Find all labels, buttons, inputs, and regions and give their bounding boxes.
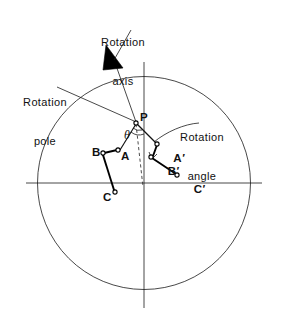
reference-dashed-line bbox=[136, 124, 143, 187]
node-marker-p bbox=[134, 121, 138, 125]
node-marker-b bbox=[101, 151, 105, 155]
rotation-axis-label-line1: Rotation bbox=[84, 36, 162, 49]
theta-angle-arc bbox=[131, 132, 144, 135]
point-label-c-prime-base: C bbox=[194, 183, 202, 195]
point-label-c: C bbox=[103, 191, 111, 205]
point-label-c-prime: C′ bbox=[181, 169, 205, 210]
node-marker-b-prime bbox=[149, 155, 153, 159]
point-label-c-prime-mark: ′ bbox=[202, 183, 205, 195]
rotation-pole-label: Rotation pole bbox=[6, 70, 84, 174]
point-label-a-prime-mark: ′ bbox=[182, 152, 185, 164]
rotation-axis-label: Rotation axis bbox=[84, 10, 162, 114]
point-label-a: A bbox=[121, 150, 129, 164]
theta-angle-label: θ bbox=[124, 128, 130, 142]
node-marker-a bbox=[116, 148, 120, 152]
point-label-p: P bbox=[140, 111, 148, 125]
point-label-b-prime-mark: ′ bbox=[176, 165, 179, 177]
rotation-axis-label-line2: axis bbox=[84, 75, 162, 88]
pole-to-a-prime-spoke bbox=[137, 124, 156, 143]
rotation-pole-label-line2: pole bbox=[6, 135, 84, 148]
segment-b-a bbox=[104, 150, 117, 153]
node-marker-c bbox=[113, 190, 117, 194]
node-marker-a-prime bbox=[155, 142, 159, 146]
point-label-b-prime-base: B bbox=[168, 165, 176, 177]
rotation-pole-label-line1: Rotation bbox=[6, 96, 84, 109]
point-label-b: B bbox=[92, 146, 100, 160]
rotation-pole-diagram: Rotation axis Rotation pole Rotation ang… bbox=[0, 0, 283, 324]
segment-b-c bbox=[103, 155, 114, 190]
point-label-b-prime: B′ bbox=[155, 151, 179, 192]
